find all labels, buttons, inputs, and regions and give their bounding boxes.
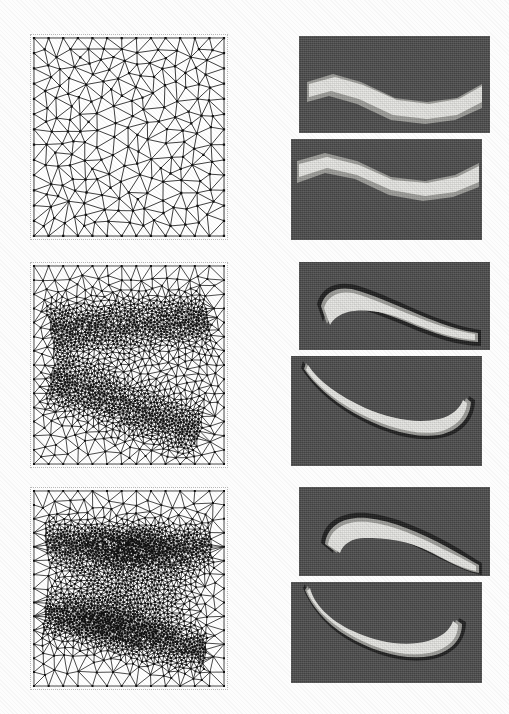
contour-refined-1-bottom-svg [291,356,482,466]
contour-refined-2-bottom-svg [291,582,482,683]
contour-refined-1-top-svg [299,262,490,350]
figure-root [0,0,509,714]
contour-panel-refined-2 [291,487,490,683]
contour-refined-1-top-half [299,262,490,350]
mesh-refined-1-svg [31,263,227,467]
mesh-panel-refined-1 [30,262,228,468]
mesh-panel-initial [30,34,228,240]
contour-initial-bottom-half [291,139,482,240]
contour-panel-refined-1 [291,262,490,466]
mesh-refined-2-svg [31,488,227,689]
mesh-initial-svg [31,35,227,239]
contour-initial-top-svg [299,36,490,133]
contour-refined-2-top-half [299,487,490,576]
contour-refined-1-bottom-half [291,356,482,466]
contour-refined-2-top-svg [299,487,490,576]
contour-initial-top-half [299,36,490,133]
mesh-panel-refined-2 [30,487,228,690]
contour-panel-initial [291,36,490,240]
contour-initial-bottom-svg [291,139,482,240]
contour-refined-2-bottom-half [291,582,482,683]
